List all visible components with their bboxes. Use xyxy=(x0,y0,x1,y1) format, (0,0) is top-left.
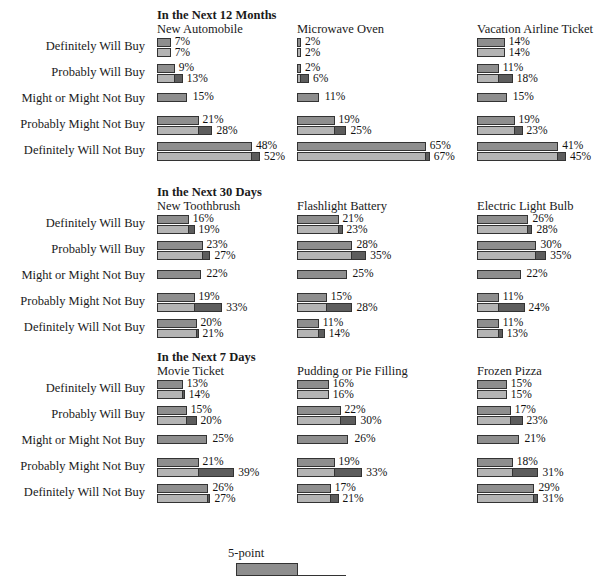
bar-five-point xyxy=(477,64,499,73)
bar-value-label: 23% xyxy=(527,415,548,426)
bar-extension-segment xyxy=(208,494,210,503)
bar-value-label: 21% xyxy=(203,456,224,467)
bar-extension-segment xyxy=(515,126,523,135)
row-label: Definitely Will Buy xyxy=(0,382,148,395)
bar-five-point xyxy=(297,215,339,224)
bar-value-label: 52% xyxy=(264,151,285,162)
bar-eleven-point xyxy=(477,494,534,503)
bar-five-point xyxy=(157,380,183,389)
bar-five-point xyxy=(297,142,426,151)
bar-value-label: 11% xyxy=(325,91,346,102)
row-label: Definitely Will Buy xyxy=(0,40,148,53)
bar-value-label: 14% xyxy=(509,47,530,58)
bar-extension-segment xyxy=(341,416,357,425)
bar-extension-segment xyxy=(499,74,513,83)
bar-five-point xyxy=(477,319,499,328)
bar-extension-segment xyxy=(513,468,539,477)
bar-eleven-point xyxy=(477,416,511,425)
bar-five-point xyxy=(297,293,327,302)
bar-extension-segment xyxy=(319,329,325,338)
panel-title: Pudding or Pie Filling xyxy=(297,364,408,378)
bar-eleven-point xyxy=(477,251,536,260)
bar-five-point xyxy=(157,215,189,224)
bar-value-label: 28% xyxy=(356,302,377,313)
panel-title: New Toothbrush xyxy=(157,199,240,213)
legend-label: 5-point xyxy=(228,546,264,560)
bar-extension-segment xyxy=(197,329,199,338)
bar-five-point xyxy=(157,64,175,73)
bar-eleven-point xyxy=(157,494,208,503)
bar-value-label: 25% xyxy=(353,268,374,279)
bar-extension-segment xyxy=(195,303,223,312)
bar-extension-segment xyxy=(534,494,538,503)
bar-eleven-point xyxy=(157,468,199,477)
bar-value-label: 15% xyxy=(513,91,534,102)
bar-eleven-point xyxy=(157,390,183,399)
bar-eleven-point xyxy=(297,468,335,477)
bar-five-point xyxy=(157,458,199,467)
bar-five-point xyxy=(477,142,558,151)
bar-eleven-point xyxy=(477,468,513,477)
bar-eleven-point xyxy=(297,494,331,503)
bar-extension-segment xyxy=(301,74,309,83)
bar-five-point xyxy=(297,458,335,467)
bar-eleven-point xyxy=(297,329,319,338)
bar-five-point xyxy=(157,319,197,328)
bar-midpoint xyxy=(157,435,207,444)
bar-value-label: 15% xyxy=(331,291,352,302)
chart-section: In the Next 7 DaysDefinitely Will BuyPro… xyxy=(0,350,614,510)
bar-eleven-point xyxy=(157,126,199,135)
bar-midpoint xyxy=(297,270,347,279)
row-label: Might or Might Not Buy xyxy=(0,434,148,447)
bar-value-label: 24% xyxy=(529,302,550,313)
bar-value-label: 16% xyxy=(333,389,354,400)
bar-eleven-point xyxy=(297,303,327,312)
panel-title: Movie Ticket xyxy=(157,364,224,378)
bar-value-label: 13% xyxy=(187,73,208,84)
row-label: Probably Might Not Buy xyxy=(0,295,148,308)
bar-value-label: 25% xyxy=(213,433,234,444)
bar-extension-segment xyxy=(187,416,197,425)
bar-value-label: 6% xyxy=(313,73,328,84)
panel-title: Flashlight Battery xyxy=(297,199,387,213)
bar-midpoint xyxy=(297,435,348,444)
bar-value-label: 22% xyxy=(527,268,548,279)
bar-five-point xyxy=(477,215,528,224)
bar-value-label: 67% xyxy=(434,151,455,162)
bar-eleven-point xyxy=(297,416,341,425)
row-label: Probably Will Buy xyxy=(0,243,148,256)
bar-five-point xyxy=(477,293,499,302)
bar-extension-segment xyxy=(199,126,213,135)
bar-extension-segment xyxy=(189,225,195,234)
row-label: Definitely Will Not Buy xyxy=(0,321,148,334)
section-heading: In the Next 12 Months xyxy=(157,8,276,22)
bar-eleven-point xyxy=(477,74,499,83)
bar-five-point xyxy=(157,38,171,47)
bar-extension-segment xyxy=(536,251,546,260)
bar-value-label: 19% xyxy=(339,456,360,467)
row-label: Definitely Will Not Buy xyxy=(0,144,148,157)
bar-extension-segment xyxy=(335,126,347,135)
bar-five-point xyxy=(157,116,199,125)
row-label: Probably Will Buy xyxy=(0,408,148,421)
bar-eleven-point xyxy=(477,152,558,161)
bar-value-label: 14% xyxy=(329,328,350,339)
row-label: Probably Might Not Buy xyxy=(0,118,148,131)
bar-five-point xyxy=(157,484,208,493)
row-label: Probably Will Buy xyxy=(0,66,148,79)
bar-value-label: 21% xyxy=(203,328,224,339)
chart-section: In the Next 12 MonthsDefinitely Will Buy… xyxy=(0,8,614,168)
bar-extension-segment xyxy=(528,225,532,234)
bar-value-label: 19% xyxy=(199,291,220,302)
bar-value-label: 15% xyxy=(511,389,532,400)
bar-extension-segment xyxy=(511,416,523,425)
bar-midpoint xyxy=(477,435,519,444)
bar-eleven-point xyxy=(297,251,352,260)
bar-value-label: 23% xyxy=(527,125,548,136)
panel-title: Electric Light Bulb xyxy=(477,199,574,213)
bar-value-label: 14% xyxy=(189,389,210,400)
bar-five-point xyxy=(157,293,195,302)
bar-value-label: 35% xyxy=(550,250,571,261)
bar-five-point xyxy=(157,142,252,151)
bar-midpoint xyxy=(477,93,507,102)
